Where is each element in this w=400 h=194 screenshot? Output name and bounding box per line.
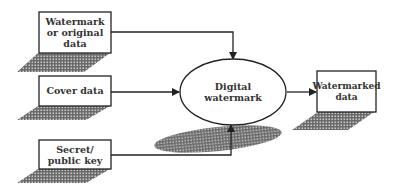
node-process-line2: watermark xyxy=(203,92,262,103)
shadow-cover-data xyxy=(17,106,110,120)
edge-watermark-to-process xyxy=(111,32,233,59)
node-watermark-input-line3: data xyxy=(63,38,86,49)
node-process-line1: Digital xyxy=(215,81,252,92)
watermark-diagram: Watermark or original data Cover data Se… xyxy=(0,0,400,194)
node-watermark-input-line1: Watermark xyxy=(44,16,105,27)
shadow-watermark-input xyxy=(17,53,110,72)
node-output-line2: data xyxy=(335,92,357,102)
node-key-line1: Secret/ xyxy=(56,144,94,155)
node-cover-data-label: Cover data xyxy=(46,85,103,96)
node-output: Watermarked data xyxy=(311,71,381,112)
shadow-key xyxy=(17,169,110,183)
node-process: Digital watermark xyxy=(180,59,286,125)
node-watermark-input: Watermark or original data xyxy=(39,12,111,53)
node-watermark-input-line2: or original xyxy=(47,27,104,38)
node-key-line2: public key xyxy=(48,155,103,166)
node-output-line1: Watermarked xyxy=(311,81,381,91)
shadow-process xyxy=(153,120,283,157)
shadow-output xyxy=(292,112,374,130)
node-cover-data: Cover data xyxy=(39,76,111,106)
node-key: Secret/ public key xyxy=(39,140,111,169)
